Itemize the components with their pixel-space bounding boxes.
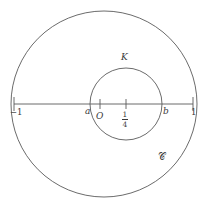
label-point-a: a <box>85 107 90 116</box>
label-circle-K: K <box>121 53 128 62</box>
label-one: 1 <box>191 108 196 117</box>
label-origin: O <box>96 112 103 121</box>
fraction-numerator: 1 <box>122 111 128 119</box>
label-one-quarter: 1 4 <box>122 111 128 129</box>
label-circle-C: 𝒞 <box>158 152 165 162</box>
fraction-denominator: 4 <box>122 121 128 129</box>
label-minus-one: −1 <box>10 108 23 117</box>
label-point-b: b <box>163 107 169 116</box>
figure-canvas <box>0 0 207 212</box>
math-figure: −1 1 a b O 1 4 K 𝒞 <box>0 0 207 212</box>
